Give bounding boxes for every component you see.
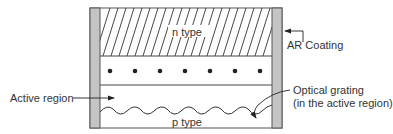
active-region-label: Active region: [10, 92, 74, 104]
ar-coating-label: AR Coating: [287, 39, 343, 51]
optical-grating-label: Optical grating (in the active region): [293, 84, 393, 110]
ar-coating-right: [272, 8, 282, 128]
optical-grating-label-line2: (in the active region): [293, 97, 393, 110]
ar-coating-left: [90, 8, 100, 128]
optical-grating-label-line1: Optical grating: [293, 84, 393, 97]
p-type-label: p type: [172, 116, 202, 128]
n-type-label: n type: [172, 26, 202, 38]
